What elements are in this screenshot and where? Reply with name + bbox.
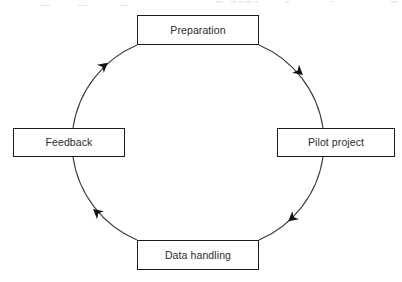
node-box-preparation[interactable]: Preparation: [137, 15, 259, 45]
node-label-pilot-project: Pilot project: [308, 137, 364, 148]
arc-feedback-to-preparation: [73, 45, 137, 128]
node-label-preparation: Preparation: [170, 25, 225, 36]
node-label-feedback: Feedback: [46, 137, 93, 148]
diagram-canvas: Preparation Pilot project Data handling …: [0, 0, 402, 282]
arc-preparation-to-pilot: [259, 45, 323, 128]
arc-pilot-to-data-handling: [259, 157, 323, 240]
node-label-data-handling: Data handling: [165, 250, 231, 261]
arc-data-handling-to-feedback: [73, 157, 137, 240]
node-box-data-handling[interactable]: Data handling: [137, 240, 259, 270]
arrowhead-preparation-to-pilot: [292, 65, 306, 79]
arrowhead-feedback-to-preparation: [97, 59, 111, 73]
node-box-pilot-project[interactable]: Pilot project: [277, 128, 395, 157]
scan-artifact-noise: [0, 0, 402, 8]
node-box-feedback[interactable]: Feedback: [13, 128, 125, 157]
arrowhead-data-handling-to-feedback: [90, 205, 104, 219]
